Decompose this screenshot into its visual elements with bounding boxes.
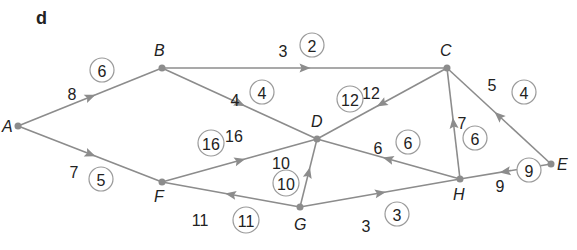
node-label-F: F (154, 188, 165, 205)
edge-A-B (18, 68, 162, 126)
arrowhead-icon (84, 91, 98, 103)
edge-flow: 10 (277, 176, 295, 193)
edge-B-C (162, 64, 447, 73)
node-B (159, 65, 166, 72)
node-E (548, 161, 555, 168)
edge-G-H (300, 179, 460, 207)
edge-capacity: 11 (192, 212, 209, 229)
edge-flow: 5 (97, 172, 106, 189)
edge-capacity: 7 (70, 164, 79, 181)
edge-capacity: 6 (374, 140, 383, 157)
node-D (314, 136, 321, 143)
node-H (457, 176, 464, 183)
edge-flow: 3 (393, 207, 402, 224)
node-label-H: H (453, 186, 465, 203)
edge-capacity: 8 (68, 86, 77, 103)
node-label-G: G (294, 216, 306, 233)
panel-label: d (36, 8, 47, 28)
edge-capacity: 10 (272, 155, 290, 172)
edge-capacity: 4 (231, 92, 240, 109)
edge-capacity: 12 (362, 85, 380, 102)
edge-H-D (317, 139, 460, 179)
edge-flow: 16 (202, 136, 220, 153)
node-G (297, 204, 304, 211)
edge-flow: 4 (258, 85, 267, 102)
edge-flow: 6 (471, 131, 480, 148)
node-label-B: B (154, 42, 165, 59)
arrowhead-icon (382, 153, 395, 165)
edge-capacity: 3 (279, 43, 288, 60)
node-label-A: A (1, 118, 13, 135)
node-F (159, 179, 166, 186)
edge-capacity: 3 (362, 218, 371, 235)
node-label-D: D (311, 113, 323, 130)
edge-capacity: 16 (225, 128, 243, 145)
edge-flow: 6 (404, 135, 413, 152)
edge-flow: 12 (341, 92, 359, 109)
edge-flow: 9 (525, 163, 534, 180)
edge-capacity: 7 (458, 115, 467, 132)
node-label-C: C (440, 42, 452, 59)
edge-capacity: 9 (496, 178, 505, 195)
node-C (444, 65, 451, 72)
network-flow-diagram: d 8675324412125476661616101011113399 ABC… (0, 0, 577, 250)
edge-flow: 2 (308, 38, 317, 55)
node-A (15, 123, 22, 130)
edge-flow: 11 (238, 213, 255, 230)
edge-flow: 6 (98, 63, 107, 80)
arrowhead-icon (303, 166, 314, 179)
arrowhead-icon (233, 155, 246, 167)
edge-flow: 4 (520, 85, 529, 102)
edge-C-D (317, 68, 447, 139)
node-label-E: E (557, 156, 568, 173)
edge-G-D (300, 139, 317, 207)
arrowhead-icon (84, 148, 98, 160)
edge-capacity: 5 (488, 77, 497, 94)
